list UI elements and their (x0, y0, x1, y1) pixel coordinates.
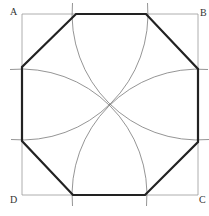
octagon-construction-diagram: A B C D (0, 0, 209, 216)
arc-centered-a (11, 3, 148, 140)
label-c: C (199, 194, 206, 205)
arc-centered-d (10, 69, 147, 206)
label-a: A (10, 6, 18, 17)
label-b: B (200, 7, 207, 18)
arc-centered-c (72, 69, 208, 206)
arc-centered-b (72, 3, 209, 140)
label-d: D (10, 194, 17, 205)
